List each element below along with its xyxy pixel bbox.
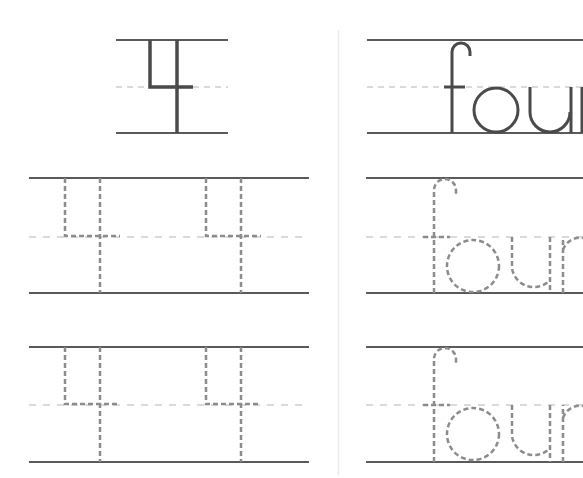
word-four-glyph: [444, 43, 582, 133]
numeral-4-glyph: [150, 40, 193, 133]
handwriting-worksheet: 4 four: [0, 0, 583, 478]
trace-word-row-1[interactable]: [366, 178, 583, 293]
traceable-4-glyph: [206, 347, 261, 462]
trace-word-row-2[interactable]: [366, 347, 583, 462]
traceable-4-glyph: [206, 178, 261, 293]
trace-numeral-row-1[interactable]: [29, 178, 309, 293]
traceable-4-glyph: [65, 178, 120, 293]
model-word-block: [367, 40, 583, 133]
traceable-four-glyph: [423, 348, 583, 462]
traceable-four-glyph: [423, 179, 583, 293]
worksheet-canvas: [0, 0, 583, 478]
model-numeral-block: [116, 40, 228, 133]
traceable-4-glyph: [65, 347, 120, 462]
trace-numeral-row-2[interactable]: [29, 347, 309, 462]
